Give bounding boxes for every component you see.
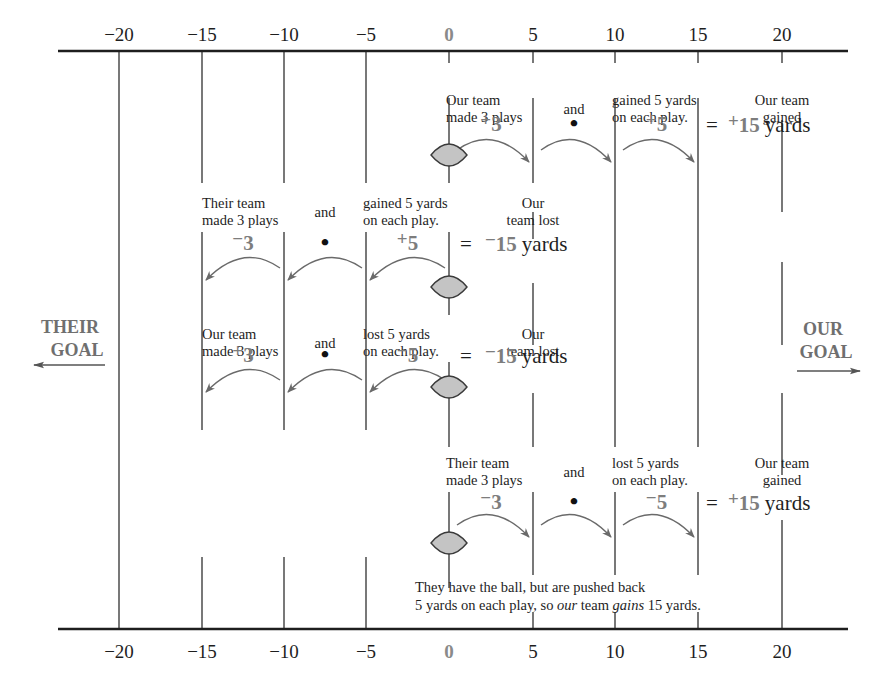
arrow-right-arc xyxy=(623,514,694,537)
arrow-right-arc xyxy=(457,514,529,537)
football-icon xyxy=(431,532,467,554)
tick-label-bottom: 15 xyxy=(689,641,708,662)
result-caption: team lost xyxy=(507,212,560,228)
tick-label-top: 0 xyxy=(444,24,454,45)
tick-label-top: 10 xyxy=(606,24,625,45)
play-row-4: Their teammade 3 playsandlost 5 yardson … xyxy=(431,455,810,554)
our-goal-label: OUR xyxy=(803,319,844,339)
and-label: and xyxy=(315,204,337,220)
tick-label-bottom: −15 xyxy=(187,641,217,662)
arrow-left-arc xyxy=(206,369,280,392)
result-caption: gained xyxy=(763,472,802,488)
factor2-caption: on each play. xyxy=(363,212,439,228)
factor2-caption: gained 5 yards xyxy=(363,195,448,211)
arrow-right-arc xyxy=(541,139,611,162)
our-goal-label: GOAL xyxy=(799,342,852,362)
footnote-line-2: 5 yards on each play, so our team gains … xyxy=(415,597,701,613)
tick-label-top: −10 xyxy=(269,24,299,45)
tick-label-bottom: 0 xyxy=(444,641,454,662)
result-value: +15yards xyxy=(728,488,810,515)
equals-sign: = xyxy=(706,113,718,137)
factor1-value: +3 xyxy=(232,340,253,367)
factor2-caption: gained 5 yards xyxy=(612,92,697,108)
multiply-dot: • xyxy=(321,229,329,255)
goal-labels: THEIRGOALOURGOAL xyxy=(34,317,860,371)
factor2-value: −5 xyxy=(397,340,418,367)
factor1-caption: Our team xyxy=(446,92,501,108)
factor1-caption: Our team xyxy=(202,326,257,342)
result-caption: Our team xyxy=(755,92,810,108)
arrow-left-arc xyxy=(288,257,362,280)
arrow-right-arc xyxy=(541,514,611,537)
result-value: +15yards xyxy=(728,110,810,137)
factor2-value: +5 xyxy=(397,228,418,255)
football-icon xyxy=(431,376,467,398)
play-row-1: Our teammade 3 playsandgained 5 yardson … xyxy=(431,92,810,166)
tick-label-top: −20 xyxy=(104,24,134,45)
football-number-line-diagram: −20−20−15−15−10−10−5−50055101015152020 T… xyxy=(0,0,885,693)
play-row-3: Our teammade 3 playsandlost 5 yardson ea… xyxy=(202,326,567,398)
tick-label-bottom: −10 xyxy=(269,641,299,662)
tick-label-bottom: 10 xyxy=(606,641,625,662)
factor1-value: +3 xyxy=(480,109,501,136)
footnote: They have the ball, but are pushed back5… xyxy=(415,579,701,613)
tick-label-bottom: 20 xyxy=(773,641,792,662)
arrow-left-arc xyxy=(370,257,445,280)
play-row-2: Their teammade 3 playsandgained 5 yardso… xyxy=(202,195,567,298)
arrow-left-arc xyxy=(288,369,362,392)
arrow-right-arc xyxy=(457,139,529,162)
tick-label-top: 20 xyxy=(773,24,792,45)
result-caption: Our xyxy=(522,326,545,342)
tick-label-bottom: 5 xyxy=(528,641,538,662)
factor1-caption: Their team xyxy=(202,195,266,211)
tick-label-bottom: −5 xyxy=(356,641,376,662)
factor1-value: −3 xyxy=(232,228,253,255)
footnote-line-1: They have the ball, but are pushed back xyxy=(415,579,646,595)
multiply-dot: • xyxy=(321,341,329,367)
result-caption: Our xyxy=(522,195,545,211)
and-label: and xyxy=(564,464,586,480)
tick-label-bottom: −20 xyxy=(104,641,134,662)
arrow-left-arc xyxy=(206,257,280,280)
factor2-value: −5 xyxy=(646,487,667,514)
equals-sign: = xyxy=(460,344,472,368)
factor2-caption: lost 5 yards xyxy=(612,455,679,471)
equals-sign: = xyxy=(706,491,718,515)
equals-sign: = xyxy=(460,232,472,256)
result-value: −15yards xyxy=(485,229,567,256)
factor1-caption: Their team xyxy=(446,455,510,471)
result-value: −15yards xyxy=(485,341,567,368)
tick-label-top: 5 xyxy=(528,24,538,45)
factor2-value: +5 xyxy=(646,109,667,136)
their-goal-label: GOAL xyxy=(50,340,103,360)
tick-label-top: 15 xyxy=(689,24,708,45)
arrow-right-arc xyxy=(623,139,694,162)
multiply-dot: • xyxy=(570,488,578,514)
factor2-caption: on each play. xyxy=(612,472,688,488)
factor1-value: −3 xyxy=(480,487,501,514)
tick-label-top: −15 xyxy=(187,24,217,45)
factor1-caption: made 3 plays xyxy=(202,212,279,228)
result-caption: Our team xyxy=(755,455,810,471)
football-icon xyxy=(431,276,467,298)
tick-label-top: −5 xyxy=(356,24,376,45)
factor1-caption: made 3 plays xyxy=(446,472,523,488)
their-goal-label: THEIR xyxy=(41,317,100,337)
play-rows: Our teammade 3 playsandgained 5 yardson … xyxy=(202,92,810,554)
multiply-dot: • xyxy=(570,110,578,136)
